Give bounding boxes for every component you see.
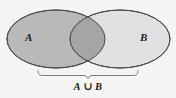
set-b-label: B bbox=[140, 32, 148, 43]
caption-term-b: B bbox=[95, 81, 102, 92]
union-operator-icon: ∪ bbox=[81, 80, 95, 92]
caption-term-a: A bbox=[74, 81, 81, 92]
union-caption: A∪B bbox=[0, 81, 176, 93]
venn-diagram-figure: A B A∪B bbox=[0, 0, 176, 98]
set-a-label: A bbox=[25, 32, 33, 43]
